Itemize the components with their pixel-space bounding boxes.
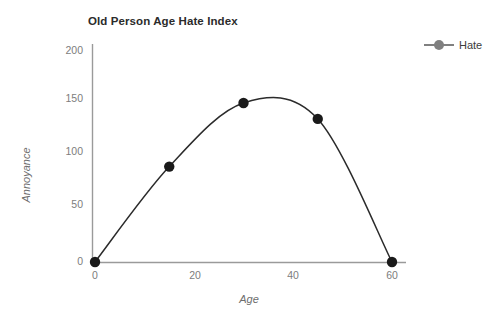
y-axis-title: Annoyance (20, 147, 32, 203)
data-point-marker (387, 257, 397, 267)
data-point-marker (90, 257, 100, 267)
y-tick-label-150: 150 (65, 92, 83, 104)
chart-container: Old Person Age Hate Index 200 150 100 50… (0, 0, 502, 324)
data-point-marker (164, 161, 174, 171)
legend-label-hate: Hate (459, 39, 482, 51)
x-tick-label-0: 0 (92, 269, 98, 281)
legend-marker-hate (424, 39, 454, 51)
y-tick-label-50: 50 (71, 198, 83, 210)
x-tick-label-40: 40 (287, 269, 299, 281)
legend-dot-icon (434, 40, 444, 50)
x-tick-label-60: 60 (386, 269, 398, 281)
y-tick-label-100: 100 (65, 145, 83, 157)
series-markers-hate (90, 98, 397, 267)
y-tick-label-200: 200 (65, 44, 83, 56)
legend: Hate (424, 39, 482, 51)
x-tick-label-20: 20 (189, 269, 201, 281)
y-tick-label-0: 0 (77, 255, 83, 267)
data-point-marker (313, 114, 323, 124)
series-line-hate (95, 98, 392, 262)
data-point-marker (238, 98, 248, 108)
x-axis-title: Age (238, 293, 259, 305)
